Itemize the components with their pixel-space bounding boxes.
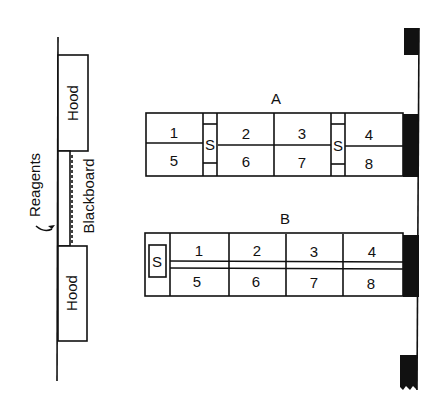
right-wall-column-bottom [400, 355, 417, 390]
station-b5: 5 [193, 273, 201, 290]
lab-floor-plan: Hood Blackboard Reagents Hood A S S [0, 0, 436, 412]
station-a7: 7 [298, 154, 306, 171]
hood-top-label: Hood [64, 85, 81, 121]
station-a1: 1 [170, 124, 178, 141]
bench-a-end-block [403, 114, 419, 177]
bench-a-label: A [271, 90, 281, 107]
bench-b-end-block [403, 235, 419, 297]
bench-b: B S 1 2 3 4 5 6 7 8 [145, 210, 419, 297]
arrowhead-icon [48, 225, 55, 229]
reagents-label: Reagents [26, 153, 43, 217]
station-b4: 4 [368, 243, 376, 260]
reagents-area: Blackboard Reagents [26, 151, 97, 246]
station-a6: 6 [242, 153, 250, 170]
blackboard-label: Blackboard [80, 158, 97, 233]
bench-a: A S S 1 2 3 4 5 6 7 8 [146, 90, 419, 177]
hood-bottom-label: Hood [63, 275, 80, 311]
bench-b-sink: S [152, 253, 162, 270]
bench-a-sink-1: S [205, 136, 215, 153]
station-a4: 4 [365, 126, 373, 143]
right-wall-column-top [404, 28, 419, 55]
right-wall [417, 28, 419, 390]
station-a8: 8 [365, 155, 373, 172]
bench-a-sink-2: S [333, 137, 343, 154]
station-b6: 6 [252, 273, 260, 290]
station-b1: 1 [195, 242, 203, 259]
station-b7: 7 [310, 274, 318, 291]
station-a3: 3 [298, 125, 306, 142]
station-a2: 2 [242, 125, 250, 142]
station-b3: 3 [310, 243, 318, 260]
station-b2: 2 [253, 242, 261, 259]
hood-top: Hood [58, 55, 88, 151]
hood-bottom: Hood [58, 246, 87, 341]
station-b8: 8 [367, 275, 375, 292]
station-a5: 5 [170, 152, 178, 169]
bench-b-label: B [280, 210, 290, 227]
